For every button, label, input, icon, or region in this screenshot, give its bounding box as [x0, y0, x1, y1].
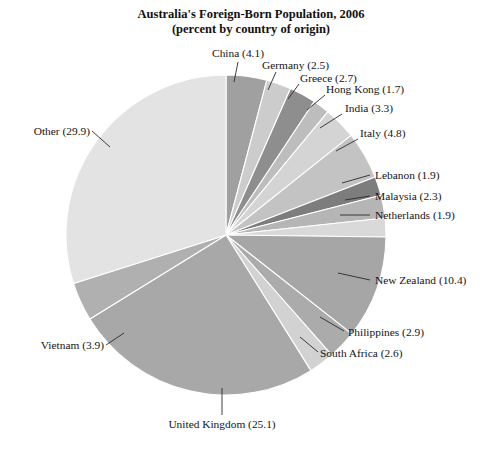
slice-label-germany: Germany (2.5) — [262, 59, 329, 72]
slice-label-united-kingdom: United Kingdom (25.1) — [168, 418, 275, 431]
slice-label-other: Other (29.9) — [34, 125, 91, 138]
chart-title-line2: (percent by country of origin) — [172, 22, 330, 36]
pie-chart-figure: Australia's Foreign-Born Population, 200… — [0, 0, 502, 449]
slice-label-china: China (4.1) — [212, 47, 264, 60]
slice-label-philippines: Philippines (2.9) — [348, 326, 424, 339]
slice-label-malaysia: Malaysia (2.3) — [375, 190, 442, 203]
slice-label-lebanon: Lebanon (1.9) — [375, 169, 440, 182]
slice-label-hong-kong: Hong Kong (1.7) — [326, 83, 404, 96]
slice-label-new-zealand: New Zealand (10.4) — [375, 274, 467, 287]
slice-label-south-africa: South Africa (2.6) — [320, 347, 403, 360]
slice-label-italy: Italy (4.8) — [360, 127, 406, 140]
slice-label-india: India (3.3) — [345, 102, 393, 115]
chart-title-line1: Australia's Foreign-Born Population, 200… — [138, 7, 365, 21]
slice-label-netherlands: Netherlands (1.9) — [375, 209, 455, 222]
slice-label-vietnam: Vietnam (3.9) — [41, 339, 104, 352]
